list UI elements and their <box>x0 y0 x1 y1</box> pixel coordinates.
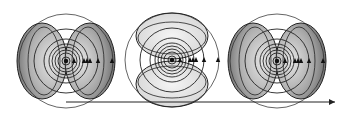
source-point <box>64 59 68 63</box>
field-pattern-right <box>228 14 326 108</box>
field-pattern-diagram <box>0 0 347 124</box>
field-pattern-left <box>17 14 115 108</box>
receiver-marker-icon <box>202 57 206 62</box>
source-point <box>275 59 279 63</box>
lobe-left <box>228 23 278 99</box>
source-point <box>170 58 174 62</box>
diagram-canvas <box>0 0 347 124</box>
lobe-left <box>17 23 67 99</box>
receiver-marker-icon <box>194 57 198 62</box>
receiver-marker-icon <box>216 57 220 62</box>
field-pattern-center <box>125 13 220 107</box>
